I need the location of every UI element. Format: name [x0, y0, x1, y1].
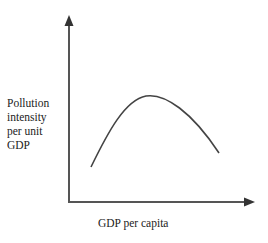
y-axis-label-line: Pollution	[7, 96, 49, 110]
inverted-u-curve	[91, 96, 219, 167]
x-axis-label: GDP per capita	[98, 216, 168, 230]
y-axis-label-line: GDP	[7, 138, 49, 152]
y-axis-label-line: per unit	[7, 124, 49, 138]
x-axis-arrow-icon	[244, 198, 255, 207]
y-axis-arrow-icon	[65, 15, 74, 26]
y-axis-label: Pollution intensity per unit GDP	[7, 96, 49, 152]
y-axis-label-line: intensity	[7, 110, 49, 124]
